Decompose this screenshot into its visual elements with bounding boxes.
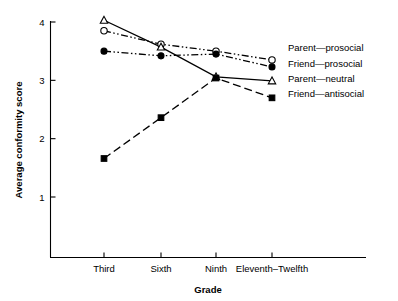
x-tick-label-3: Eleventh–Twelfth [236, 263, 308, 274]
x-tick-label-2: Ninth [205, 263, 227, 274]
y-axis-tick-labels: 1234 [39, 17, 44, 203]
data-point-s1-0 [101, 48, 107, 54]
data-point-s1-2 [213, 51, 219, 57]
chart-figure: 1234 ThirdSixthNinthEleventh–Twelfth Gra… [0, 0, 398, 301]
x-tick-label-0: Third [93, 263, 115, 274]
series-line-1 [104, 51, 272, 67]
series-line-3 [104, 78, 272, 159]
chart-legend: Parent—prosocialFriend—prosocialParent—n… [288, 42, 364, 99]
data-point-s3-2 [213, 75, 219, 81]
data-point-s3-3 [269, 95, 275, 101]
legend-label-2: Parent—neutral [288, 73, 355, 84]
data-point-s3-1 [158, 115, 164, 121]
series-line-2 [104, 20, 272, 81]
legend-label-3: Friend—antisocial [288, 88, 364, 99]
x-axis-title: Grade [194, 284, 221, 295]
x-axis-ticks [104, 253, 272, 258]
line-chart-plot: 1234 ThirdSixthNinthEleventh–Twelfth Gra… [0, 0, 398, 301]
y-axis-title: Average conformity score [13, 82, 24, 199]
data-point-s3-0 [101, 156, 107, 162]
legend-label-0: Parent—prosocial [288, 42, 364, 53]
y-tick-label-4: 4 [39, 17, 44, 28]
y-tick-label-1: 1 [39, 192, 44, 203]
x-axis-tick-labels: ThirdSixthNinthEleventh–Twelfth [93, 263, 308, 274]
y-tick-label-2: 2 [39, 133, 44, 144]
data-point-s0-0 [101, 28, 107, 34]
y-axis-ticks [51, 22, 56, 197]
chart-axes [50, 21, 366, 258]
data-point-s2-0 [100, 16, 107, 23]
data-point-s0-3 [269, 57, 275, 63]
legend-label-1: Friend—prosocial [288, 58, 362, 69]
x-tick-label-1: Sixth [150, 263, 171, 274]
data-point-s1-3 [269, 64, 275, 70]
data-point-s1-1 [158, 53, 164, 59]
y-tick-label-3: 3 [39, 75, 44, 86]
series-markers-group [100, 16, 275, 161]
series-lines-group [104, 20, 272, 158]
